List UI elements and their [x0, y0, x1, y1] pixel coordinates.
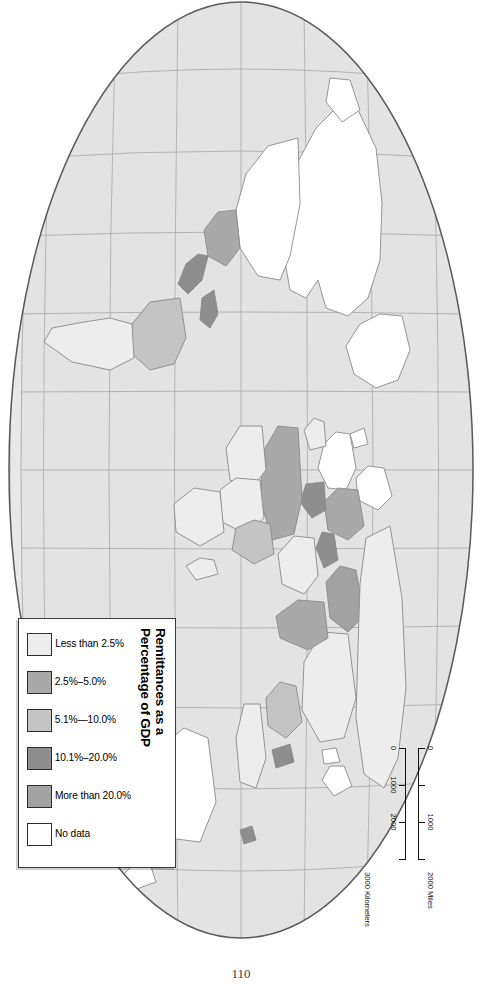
page-number: 110	[0, 966, 482, 982]
scale-label-km-1000: 1000	[389, 777, 397, 794]
scale-tick-miles-0	[419, 748, 425, 749]
legend-item: 5.1%—10.0%	[27, 704, 116, 737]
legend-swatch-5-1-to-10	[27, 709, 52, 732]
legend-item: 2.5%–5.0%	[27, 666, 106, 699]
legend-swatch-no-data	[27, 823, 52, 846]
legend-title-line-1: Remittances as a	[153, 628, 168, 735]
legend-item-label: No data	[55, 829, 90, 839]
scale-tick-miles-500	[419, 785, 425, 786]
scale-tick-miles-2000	[419, 859, 425, 860]
scale-label-km-max: 3000 Kilometers	[363, 872, 371, 927]
legend-title: Remittances as a Percentage of GDP	[137, 628, 168, 858]
legend-swatch-10-1-to-20	[27, 747, 52, 770]
legend-item-label: 10.1%–20.0%	[55, 753, 117, 763]
map-legend: Remittances as a Percentage of GDP Less …	[18, 618, 176, 868]
scale-bar-km-line	[405, 748, 406, 860]
scale-tick-km-3000	[399, 859, 405, 860]
legend-item-label: 2.5%–5.0%	[55, 677, 106, 687]
atlas-page: Remittances as a Percentage of GDP Less …	[0, 0, 482, 984]
scale-bar-miles-line	[418, 748, 419, 860]
scale-label-km-0: 0	[389, 746, 397, 750]
rotated-map-figure: Remittances as a Percentage of GDP Less …	[6, 0, 476, 942]
scale-tick-km-1000	[399, 785, 405, 786]
scale-label-miles-1000: 1000	[426, 814, 434, 831]
legend-item: More than 20.0%	[27, 780, 131, 813]
legend-item-label: 5.1%—10.0%	[55, 715, 116, 725]
scale-tick-miles-1000	[419, 822, 425, 823]
legend-item: Less than 2.5%	[27, 628, 124, 661]
legend-item-list: Less than 2.5% 2.5%–5.0% 5.1%—10.0% 10.1…	[27, 628, 131, 858]
legend-swatch-less-than-2-5	[27, 633, 52, 656]
legend-item: 10.1%–20.0%	[27, 742, 117, 775]
legend-item: No data	[27, 818, 90, 851]
scale-label-miles-0: 0	[426, 746, 434, 750]
scale-label-miles-max: 2000 Miles	[426, 872, 434, 909]
scale-tick-km-2000	[399, 822, 405, 823]
legend-item-label: More than 20.0%	[55, 791, 131, 801]
map-scale-bar: 0 1000 2000 Miles 0 1000 2000 3000 Kilom…	[386, 740, 432, 890]
legend-title-line-2: Percentage of GDP	[138, 628, 153, 747]
map-stage: Remittances as a Percentage of GDP Less …	[6, 0, 476, 942]
legend-swatch-more-than-20	[27, 785, 52, 808]
scale-tick-km-0	[399, 748, 405, 749]
legend-item-label: Less than 2.5%	[55, 639, 124, 649]
scale-label-km-2000: 2000	[389, 814, 397, 831]
legend-swatch-2-5-to-5	[27, 671, 52, 694]
